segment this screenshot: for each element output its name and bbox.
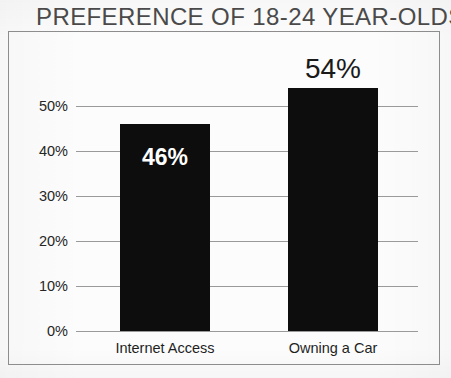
category-label-1: Internet Access: [90, 340, 240, 356]
y-axis-tick-label: 10%: [39, 278, 68, 294]
chart-screenshot: PREFERENCE OF 18-24 YEAR-OLDS 0%10%20%30…: [0, 0, 451, 378]
bar-1[interactable]: 46%: [120, 124, 210, 331]
bar-2[interactable]: [288, 88, 378, 331]
bar-value-label-1: 46%: [120, 146, 210, 169]
category-label-2: Owning a Car: [258, 340, 408, 356]
y-axis-tick-label: 40%: [39, 143, 68, 159]
bar-value-label-2: 54%: [288, 55, 378, 83]
y-axis-tick-label: 20%: [39, 233, 68, 249]
plot-area: 0%10%20%30%40%50%46%Internet Access54%Ow…: [76, 100, 418, 331]
chart-title: PREFERENCE OF 18-24 YEAR-OLDS: [36, 3, 421, 31]
y-axis-tick-label: 30%: [39, 188, 68, 204]
y-axis-tick-label: 50%: [39, 98, 68, 114]
y-axis-tick-label: 0%: [47, 323, 68, 339]
